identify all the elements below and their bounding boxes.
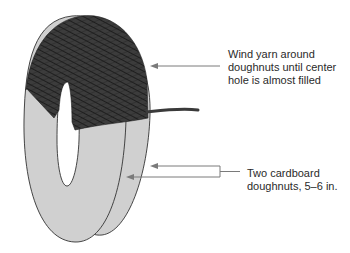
yarn-label: Wind yarn around doughnuts until center …: [228, 48, 336, 87]
yarn-label-line-3: hole is almost filled: [228, 74, 336, 87]
yarn-tail: [147, 109, 198, 112]
cardboard-label-line-2: doughnuts, 5–6 in.: [247, 180, 338, 193]
yarn-label-line-2: doughnuts until center: [228, 61, 336, 74]
cardboard-label: Two cardboard doughnuts, 5–6 in.: [247, 167, 338, 193]
diagram-illustration: [0, 0, 350, 253]
cardboard-label-line-1: Two cardboard: [247, 167, 338, 180]
yarn-label-line-1: Wind yarn around: [228, 48, 336, 61]
pompom-diagram: Wind yarn around doughnuts until center …: [0, 0, 350, 253]
yarn-leader-arrow: [150, 63, 220, 69]
